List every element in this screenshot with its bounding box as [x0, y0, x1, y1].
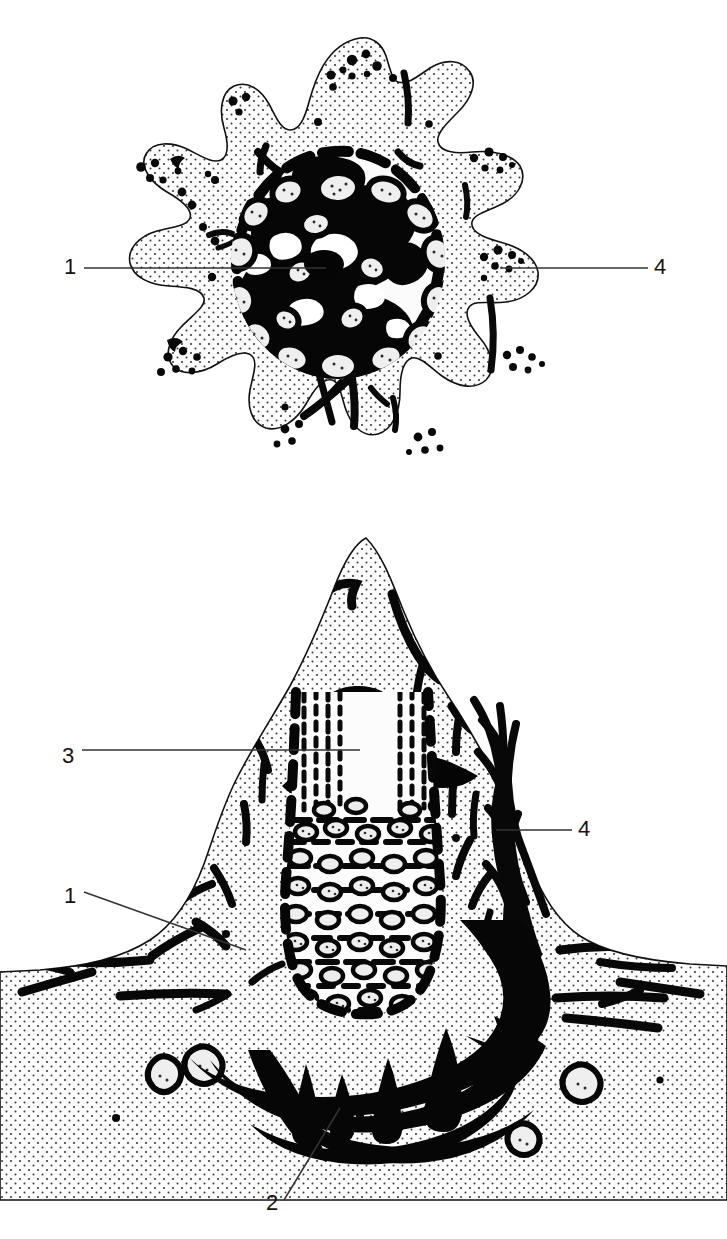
callout-label-2-bottom: 2 — [266, 1192, 278, 1214]
figure-taste-bud-surface-view — [0, 0, 727, 520]
callout-label-4-bottom: 4 — [578, 818, 590, 840]
callout-label-3-bottom: 3 — [62, 745, 74, 767]
callout-label-4-top: 4 — [654, 256, 666, 278]
callout-label-1-bottom: 1 — [64, 885, 76, 907]
figure-papilla-cross-section — [0, 520, 727, 1239]
illustration-plate: 1 4 3 1 4 2 — [0, 0, 727, 1239]
callout-label-1-top: 1 — [64, 256, 76, 278]
